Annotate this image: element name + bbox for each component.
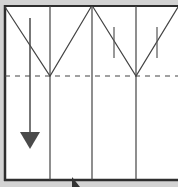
origami-fold-diagram [0,0,178,187]
